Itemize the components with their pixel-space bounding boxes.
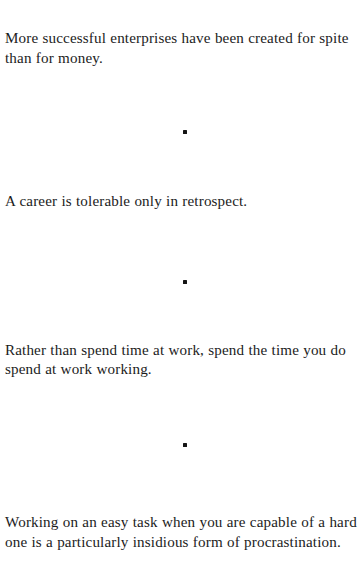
square-bullet-icon (183, 443, 187, 447)
square-bullet-icon (183, 130, 187, 134)
aphorism-spite-vs-money: More successful enterprises have been cr… (5, 29, 357, 68)
spacer (5, 284, 357, 341)
page-content: More successful enterprises have been cr… (5, 0, 357, 552)
aphorism-career-retrospect: A career is tolerable only in retrospect… (5, 192, 357, 212)
section-separator (5, 130, 357, 134)
spacer (5, 134, 357, 192)
book-page: WORKING More successful enterprises have… (0, 0, 364, 572)
spacer (5, 380, 357, 443)
aphorism-spend-time-working: Rather than spend time at work, spend th… (5, 341, 357, 380)
top-spacer (5, 0, 357, 29)
section-separator (5, 443, 357, 447)
section-separator (5, 280, 357, 284)
aphorism-easy-task-procrastination: Working on an easy task when you are cap… (5, 513, 357, 552)
spacer (5, 212, 357, 280)
spacer (5, 68, 357, 130)
spacer (5, 447, 357, 513)
square-bullet-icon (183, 280, 187, 284)
